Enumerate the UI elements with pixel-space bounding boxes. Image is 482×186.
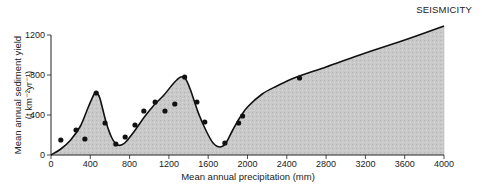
data-point xyxy=(113,141,118,146)
data-point xyxy=(73,127,78,132)
x-tick-label: 800 xyxy=(122,159,137,169)
data-point xyxy=(202,119,207,124)
x-tick-label: 3200 xyxy=(355,159,375,169)
x-tick-label: 4000 xyxy=(434,159,454,169)
y-axis-title: Mean annual sediment yield xyxy=(12,36,23,154)
data-point xyxy=(194,99,199,104)
data-point xyxy=(132,122,137,127)
data-point xyxy=(123,134,128,139)
x-axis-title: Mean annual precipitation (mm) xyxy=(181,171,315,182)
data-point xyxy=(240,113,245,118)
x-tick-label: 0 xyxy=(48,159,53,169)
sediment-yield-chart: 0400800120016002000240028003200360040000… xyxy=(0,0,482,186)
data-point xyxy=(182,74,187,79)
data-point xyxy=(153,99,158,104)
x-tick-label: 2800 xyxy=(316,159,336,169)
data-point xyxy=(58,137,63,142)
x-tick-label: 2400 xyxy=(277,159,297,169)
data-point xyxy=(222,140,227,145)
data-point xyxy=(94,90,99,95)
x-tick-label: 1600 xyxy=(198,159,218,169)
x-tick-label: 400 xyxy=(83,159,98,169)
data-point xyxy=(162,108,167,113)
y-axis-units: (t km⁻²yr⁻¹) xyxy=(23,71,34,120)
data-point xyxy=(172,101,177,106)
data-point xyxy=(102,120,107,125)
y-tick-label: 0 xyxy=(40,150,45,160)
data-point xyxy=(82,136,87,141)
x-tick-label: 2000 xyxy=(237,159,257,169)
data-point xyxy=(236,120,241,125)
x-tick-label: 1200 xyxy=(159,159,179,169)
data-point xyxy=(141,108,146,113)
x-tick-label: 3600 xyxy=(395,159,415,169)
data-point xyxy=(297,75,302,80)
y-tick-label: 1200 xyxy=(25,30,45,40)
